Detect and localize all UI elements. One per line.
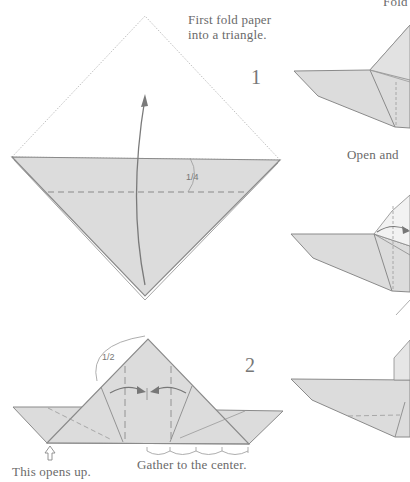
step2-diagram xyxy=(13,336,283,460)
step1-folded-triangle xyxy=(12,157,280,296)
step2-measure-braces xyxy=(147,447,248,455)
right-step-c-diagram xyxy=(291,340,410,437)
top-right-caption: Fold xyxy=(383,0,408,10)
step2-caption-opens: This opens up. xyxy=(12,464,91,480)
origami-diagram-canvas: 1/4 1/2 xyxy=(0,0,410,482)
step2-fraction-label: 1/2 xyxy=(102,352,115,362)
right-b-bottom-edge xyxy=(396,300,410,315)
step1-fraction-label: 1/4 xyxy=(186,172,199,182)
step2-number: 2 xyxy=(245,354,255,377)
step2-main-triangle xyxy=(47,339,249,444)
right-step-b-diagram xyxy=(291,195,410,315)
step1-caption-line2: into a triangle. xyxy=(188,27,267,43)
opens-up-arrow-icon xyxy=(45,446,55,460)
right-c-hull xyxy=(291,379,410,437)
step1-diagram xyxy=(12,16,280,300)
step1-caption-line1: First fold paper xyxy=(188,12,271,28)
right-caption-open: Open and xyxy=(347,147,399,163)
right-c-sail xyxy=(394,340,410,380)
right-step-a-diagram xyxy=(294,25,410,128)
step2-caption-gather: Gather to the center. xyxy=(137,457,247,473)
right-b-hull xyxy=(291,234,410,292)
step1-arrow-head-icon xyxy=(141,94,148,107)
step1-number: 1 xyxy=(251,66,261,89)
